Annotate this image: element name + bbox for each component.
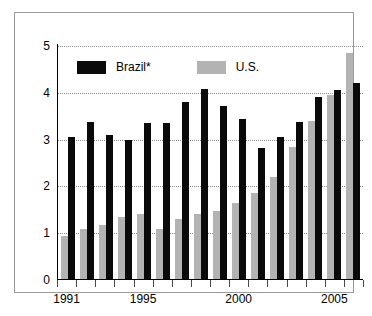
x-axis-tick-label-2000: 2000 (225, 292, 252, 306)
chart-frame: Brazil* U.S. 012345 1991199520002005 (14, 12, 354, 293)
bar-us-2003 (289, 147, 296, 280)
x-axis-tick-label-1991: 1991 (53, 292, 80, 306)
bar-group-2001 (248, 46, 267, 280)
x-axis-ticks (57, 280, 363, 287)
y-axis-tick-label-4: 4 (43, 87, 50, 99)
x-tick-1 (76, 280, 77, 287)
bar-brazil-2006 (353, 83, 360, 280)
bar-group-2003 (286, 46, 305, 280)
x-tick-16 (363, 280, 364, 287)
bar-us-1993 (99, 225, 106, 280)
bar-group-1997 (172, 46, 191, 280)
bar-us-1999 (213, 211, 220, 280)
x-tick-8 (210, 280, 211, 287)
x-tick-3 (114, 280, 115, 287)
y-axis-tick-label-1: 1 (43, 227, 50, 239)
bar-groups (57, 46, 363, 280)
bar-brazil-1997 (182, 102, 189, 280)
x-tick-10 (248, 280, 249, 287)
bar-group-1994 (115, 46, 134, 280)
bar-brazil-2005 (334, 90, 341, 280)
x-axis-tick-label-1995: 1995 (130, 292, 157, 306)
bar-us-2002 (270, 177, 277, 280)
x-tick-7 (191, 280, 192, 287)
bar-brazil-2003 (296, 122, 303, 280)
x-tick-4 (134, 280, 135, 287)
chart-figure: Brazil* U.S. 012345 1991199520002005 (0, 0, 372, 316)
bar-group-1992 (77, 46, 96, 280)
x-tick-9 (229, 280, 230, 287)
bar-us-1998 (194, 214, 201, 280)
bar-group-2004 (305, 46, 324, 280)
x-tick-14 (325, 280, 326, 287)
bar-brazil-1995 (144, 123, 151, 280)
bar-group-1991 (58, 46, 77, 280)
bar-group-2005 (324, 46, 343, 280)
x-axis-tick-label-2005: 2005 (321, 292, 348, 306)
bar-brazil-2001 (258, 148, 265, 280)
x-tick-5 (153, 280, 154, 287)
x-tick-13 (306, 280, 307, 287)
bar-brazil-1996 (163, 123, 170, 280)
bar-group-2000 (229, 46, 248, 280)
x-axis-labels: 1991199520002005 (57, 292, 363, 310)
y-axis-tick-label-5: 5 (43, 40, 50, 52)
bar-brazil-1999 (220, 106, 227, 280)
bar-brazil-1992 (87, 122, 94, 280)
x-tick-2 (95, 280, 96, 287)
bar-us-2005 (327, 95, 334, 280)
x-tick-6 (172, 280, 173, 287)
x-tick-15 (344, 280, 345, 287)
bar-us-1991 (61, 236, 68, 280)
bar-us-1995 (137, 214, 144, 280)
bar-group-1995 (134, 46, 153, 280)
bar-us-2004 (308, 121, 315, 280)
bar-group-1993 (96, 46, 115, 280)
bar-us-2006 (346, 53, 353, 280)
y-axis-tick-label-3: 3 (43, 134, 50, 146)
plot-area: 012345 1991199520002005 (57, 46, 363, 280)
bar-brazil-2000 (239, 119, 246, 280)
bar-group-2002 (267, 46, 286, 280)
y-axis-tick-label-0: 0 (43, 274, 50, 286)
bar-brazil-1991 (68, 137, 75, 280)
bar-brazil-1998 (201, 89, 208, 280)
bar-us-1992 (80, 229, 87, 280)
bar-brazil-1994 (125, 140, 132, 280)
bar-group-1996 (153, 46, 172, 280)
x-tick-0 (57, 280, 58, 287)
bar-us-1996 (156, 229, 163, 280)
bar-group-1998 (191, 46, 210, 280)
x-tick-12 (287, 280, 288, 287)
bar-us-1997 (175, 219, 182, 280)
y-axis-tick-label-2: 2 (43, 180, 50, 192)
bar-brazil-2004 (315, 97, 322, 280)
bar-us-2000 (232, 203, 239, 280)
x-tick-11 (267, 280, 268, 287)
bar-group-2006 (343, 46, 362, 280)
bar-us-1994 (118, 217, 125, 280)
bar-us-2001 (251, 193, 258, 280)
bar-group-1999 (210, 46, 229, 280)
bar-brazil-2002 (277, 137, 284, 280)
bar-brazil-1993 (106, 135, 113, 280)
